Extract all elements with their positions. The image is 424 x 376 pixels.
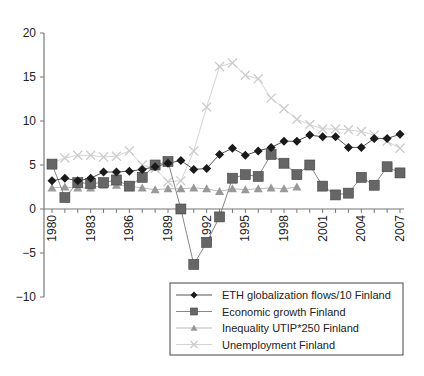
square-marker	[279, 158, 289, 168]
square-marker	[47, 159, 57, 169]
diamond-marker	[99, 168, 108, 177]
x-tick-label: 1995	[238, 215, 252, 242]
square-marker	[369, 180, 379, 190]
square-marker	[356, 172, 366, 182]
square-marker	[215, 212, 225, 222]
diamond-marker	[292, 137, 301, 146]
diamond-marker	[357, 143, 366, 152]
x-marker	[215, 62, 224, 71]
x-marker	[60, 153, 69, 162]
y-tick-label: 0	[29, 202, 36, 216]
x-tick-label: 1980	[45, 215, 59, 242]
legend-label: ETH globalization flows/10 Finland	[222, 289, 391, 301]
x-tick-label: 1998	[277, 215, 291, 242]
x-tick-label: 2001	[316, 215, 330, 242]
square-marker	[395, 168, 405, 178]
series-group	[47, 58, 405, 269]
x-marker	[228, 58, 237, 67]
x-marker	[292, 115, 301, 124]
diamond-marker	[241, 151, 250, 160]
diamond-marker	[383, 134, 392, 143]
diamond-marker	[280, 137, 289, 146]
x-marker	[125, 146, 134, 155]
diamond-marker	[305, 131, 314, 140]
y-tick-label: 5	[29, 158, 36, 172]
square-marker	[382, 162, 392, 172]
x-tick-label: 1989	[161, 215, 175, 242]
legend-label: Inequality UTIP*250 Finland	[222, 322, 359, 334]
square-marker	[176, 204, 186, 214]
square-marker	[318, 181, 328, 191]
square-marker	[331, 190, 341, 200]
series-unemployment-finland	[48, 58, 405, 186]
y-tick-label: 15	[23, 70, 37, 84]
x-marker	[202, 102, 211, 111]
x-tick-label: 2007	[393, 215, 407, 242]
square-marker	[60, 193, 70, 203]
diamond-marker	[318, 132, 327, 141]
diamond-marker	[189, 165, 198, 174]
diamond-marker	[254, 146, 263, 155]
triangle-marker	[267, 183, 276, 191]
legend-label: Economic growth Finland	[222, 306, 346, 318]
x-tick-label: 1986	[122, 215, 136, 242]
diamond-marker	[48, 176, 57, 185]
y-tick-label: −5	[22, 246, 36, 260]
x-tick-label: 2004	[354, 215, 368, 242]
square-marker	[202, 237, 212, 247]
diamond-marker	[396, 130, 405, 139]
x-marker	[241, 71, 250, 80]
square-marker	[240, 170, 250, 180]
x-marker	[254, 74, 263, 83]
line-chart: −10−505101520198019831986198919921995199…	[0, 0, 424, 376]
square-marker	[191, 308, 198, 315]
square-marker	[253, 171, 263, 181]
series-line	[52, 63, 400, 182]
square-marker	[124, 181, 134, 191]
square-marker	[343, 188, 353, 198]
series-eth-globalization-flows-10-finland	[48, 130, 405, 186]
square-marker	[99, 178, 109, 188]
x-tick-label: 1983	[84, 215, 98, 242]
triangle-marker	[292, 183, 301, 191]
diamond-marker	[125, 167, 134, 176]
x-marker	[305, 120, 314, 129]
x-marker	[267, 94, 276, 103]
x-marker	[189, 146, 198, 155]
y-tick-label: 20	[23, 26, 37, 40]
square-marker	[292, 170, 302, 180]
square-marker	[189, 259, 199, 269]
diamond-marker	[370, 134, 379, 143]
x-marker	[280, 104, 289, 113]
axes: −10−505101520198019831986198919921995199…	[16, 26, 407, 304]
square-marker	[227, 173, 237, 183]
diamond-marker	[60, 174, 69, 183]
diamond-marker	[228, 144, 237, 153]
legend: ETH globalization flows/10 FinlandEconom…	[170, 283, 403, 355]
y-tick-label: 10	[23, 114, 37, 128]
triangle-marker	[189, 183, 198, 191]
diamond-marker	[176, 156, 185, 165]
square-marker	[305, 160, 315, 170]
x-marker	[396, 144, 405, 153]
y-tick-label: −10	[16, 290, 37, 304]
legend-label: Unemployment Finland	[222, 339, 335, 351]
